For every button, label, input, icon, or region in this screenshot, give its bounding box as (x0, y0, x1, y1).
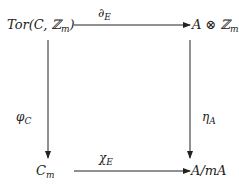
label-bottom-sub: E (106, 157, 113, 167)
node-top-left-text: Tor(C, ℤ (7, 17, 61, 32)
node-bottom-right-text: A/mA (191, 163, 226, 178)
node-bottom-left-text: C (36, 163, 46, 178)
node-bottom-right: A/mA (191, 164, 226, 177)
node-top-left-sub: m (61, 24, 70, 34)
node-bottom-left: Cm (36, 164, 55, 180)
node-top-left: Tor(C, ℤm) (7, 18, 75, 34)
node-top-right: A ⊗ ℤm (192, 18, 239, 34)
node-top-left-tail: ) (70, 17, 75, 32)
label-top-arrow: ∂E (98, 7, 111, 22)
label-left-arrow: φC (16, 111, 31, 126)
node-top-right-sub: m (230, 24, 239, 34)
label-left-sub: C (24, 116, 31, 126)
node-top-right-text: A ⊗ ℤ (192, 17, 230, 32)
label-bottom-arrow: χE (99, 152, 113, 167)
label-right-sub: A (209, 116, 216, 126)
label-right-arrow: ηA (202, 111, 216, 126)
node-bottom-left-sub: m (46, 170, 55, 180)
label-top-sub: E (104, 12, 111, 22)
